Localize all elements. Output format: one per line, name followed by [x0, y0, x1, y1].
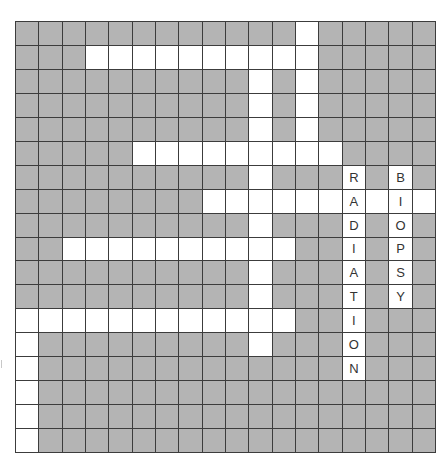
crossword-cell[interactable]	[249, 70, 271, 93]
crossword-cell[interactable]	[109, 46, 131, 69]
crossword-cell[interactable]	[249, 142, 271, 165]
crossword-cell[interactable]	[156, 46, 178, 69]
crossword-cell[interactable]: R	[343, 166, 365, 189]
crossword-cell[interactable]	[86, 238, 108, 261]
crossword-cell[interactable]	[249, 214, 271, 237]
crossword-cell[interactable]	[249, 46, 271, 69]
crossword-cell[interactable]	[63, 238, 85, 261]
crossword-cell[interactable]	[63, 309, 85, 332]
crossword-cell[interactable]	[249, 238, 271, 261]
crossword-cell[interactable]: A	[343, 261, 365, 284]
crossword-cell[interactable]	[296, 46, 318, 69]
crossword-cell[interactable]	[273, 309, 295, 332]
crossword-cell[interactable]: B	[389, 166, 411, 189]
crossword-cell[interactable]	[109, 309, 131, 332]
crossword-cell[interactable]	[16, 309, 38, 332]
crossword-cell[interactable]	[133, 309, 155, 332]
blocked-cell	[156, 166, 178, 189]
crossword-cell[interactable]	[319, 142, 341, 165]
crossword-cell[interactable]	[133, 46, 155, 69]
crossword-cell[interactable]: O	[389, 214, 411, 237]
crossword-cell[interactable]: A	[343, 190, 365, 213]
crossword-cell[interactable]	[226, 190, 248, 213]
crossword-cell[interactable]	[133, 142, 155, 165]
cell-letter: D	[349, 218, 358, 233]
crossword-cell[interactable]: Y	[389, 285, 411, 308]
crossword-cell[interactable]	[226, 309, 248, 332]
crossword-cell[interactable]: D	[343, 214, 365, 237]
blocked-cell	[249, 429, 271, 452]
blocked-cell	[273, 285, 295, 308]
crossword-cell[interactable]	[226, 142, 248, 165]
crossword-cell[interactable]: S	[389, 261, 411, 284]
blocked-cell	[109, 190, 131, 213]
crossword-cell[interactable]	[249, 118, 271, 141]
crossword-cell[interactable]: I	[389, 190, 411, 213]
crossword-cell[interactable]: T	[343, 285, 365, 308]
blocked-cell	[366, 357, 388, 380]
crossword-cell[interactable]	[156, 142, 178, 165]
crossword-cell[interactable]	[156, 309, 178, 332]
crossword-cell[interactable]: I	[343, 309, 365, 332]
crossword-cell[interactable]	[203, 238, 225, 261]
crossword-cell[interactable]	[296, 190, 318, 213]
crossword-cell[interactable]	[319, 190, 341, 213]
crossword-cell[interactable]	[249, 285, 271, 308]
crossword-cell[interactable]	[296, 94, 318, 117]
crossword-cell[interactable]	[296, 22, 318, 45]
crossword-cell[interactable]	[273, 46, 295, 69]
crossword-cell[interactable]	[273, 238, 295, 261]
crossword-cell[interactable]	[249, 309, 271, 332]
blocked-cell	[39, 190, 61, 213]
crossword-cell[interactable]	[296, 118, 318, 141]
crossword-cell[interactable]	[179, 142, 201, 165]
blocked-cell	[156, 22, 178, 45]
blocked-cell	[63, 214, 85, 237]
crossword-cell[interactable]	[226, 238, 248, 261]
crossword-cell[interactable]	[413, 190, 435, 213]
crossword-cell[interactable]	[86, 309, 108, 332]
blocked-cell	[39, 142, 61, 165]
blocked-cell	[366, 166, 388, 189]
crossword-cell[interactable]	[296, 70, 318, 93]
crossword-cell[interactable]: O	[343, 333, 365, 356]
crossword-cell[interactable]	[179, 309, 201, 332]
crossword-cell[interactable]	[16, 429, 38, 452]
blocked-cell	[63, 190, 85, 213]
crossword-cell[interactable]	[203, 309, 225, 332]
crossword-cell[interactable]	[249, 166, 271, 189]
crossword-cell[interactable]	[203, 142, 225, 165]
crossword-cell[interactable]	[366, 190, 388, 213]
crossword-cell[interactable]	[249, 261, 271, 284]
crossword-cell[interactable]	[109, 238, 131, 261]
crossword-cell[interactable]	[16, 333, 38, 356]
blocked-cell	[39, 285, 61, 308]
blocked-cell	[86, 142, 108, 165]
crossword-cell[interactable]	[226, 46, 248, 69]
crossword-cell[interactable]	[86, 46, 108, 69]
crossword-cell[interactable]	[203, 46, 225, 69]
crossword-cell[interactable]: I	[343, 238, 365, 261]
crossword-cell[interactable]	[203, 190, 225, 213]
crossword-cell[interactable]	[249, 94, 271, 117]
crossword-cell[interactable]	[39, 309, 61, 332]
blocked-cell	[273, 94, 295, 117]
crossword-cell[interactable]	[179, 46, 201, 69]
crossword-cell[interactable]: N	[343, 357, 365, 380]
crossword-cell[interactable]	[249, 333, 271, 356]
blocked-cell	[319, 429, 341, 452]
blocked-cell	[366, 22, 388, 45]
crossword-cell[interactable]	[179, 238, 201, 261]
crossword-cell[interactable]	[16, 405, 38, 428]
crossword-cell[interactable]	[273, 190, 295, 213]
crossword-cell[interactable]	[249, 190, 271, 213]
blocked-cell	[226, 429, 248, 452]
crossword-cell[interactable]	[16, 381, 38, 404]
crossword-cell[interactable]	[156, 238, 178, 261]
crossword-cell[interactable]	[296, 142, 318, 165]
crossword-cell[interactable]	[273, 142, 295, 165]
crossword-cell[interactable]	[16, 357, 38, 380]
blocked-cell	[413, 357, 435, 380]
crossword-cell[interactable]: P	[389, 238, 411, 261]
crossword-cell[interactable]	[133, 238, 155, 261]
